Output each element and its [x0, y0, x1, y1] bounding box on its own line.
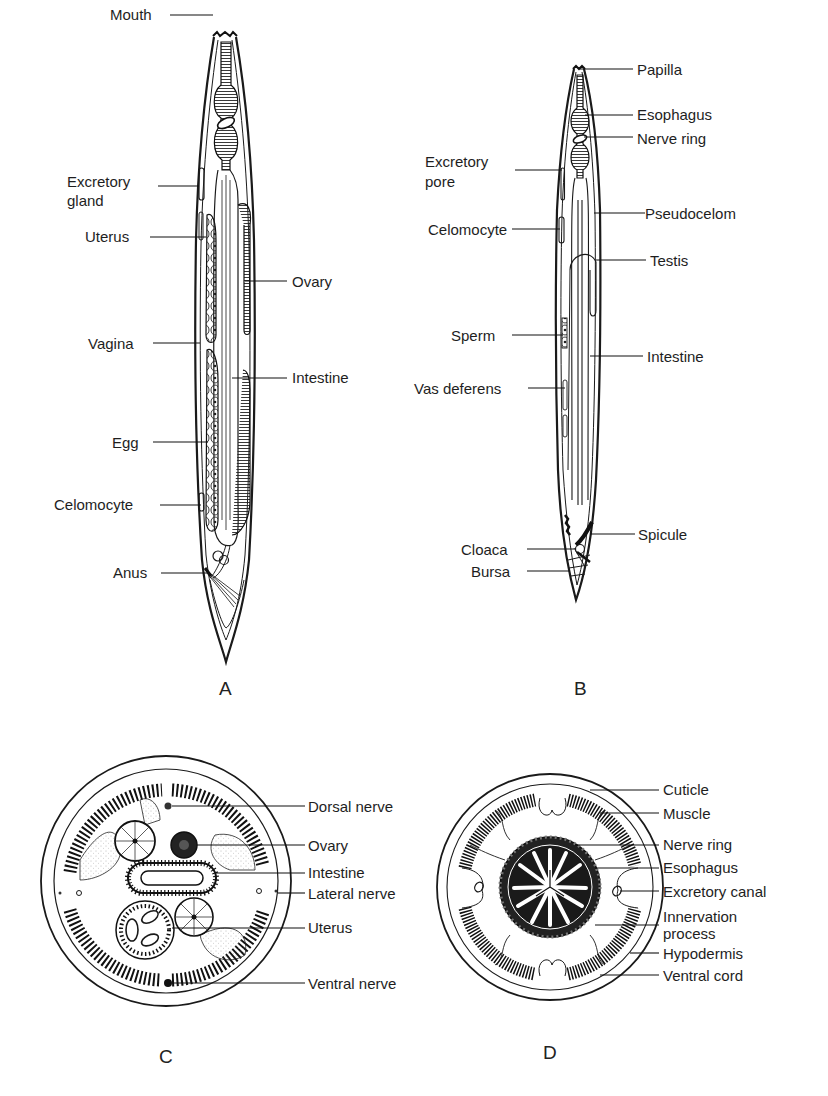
label-a-egg: Egg: [112, 434, 139, 451]
panel-a-drawing: [150, 15, 287, 662]
label-b-spicule: Spicule: [638, 526, 687, 543]
label-b-cloaca: Cloaca: [461, 541, 508, 558]
label-b-excretory-pore-line1: Excretory: [425, 153, 488, 170]
label-b-bursa: Bursa: [471, 563, 510, 580]
label-d-muscle: Muscle: [663, 805, 711, 822]
label-a-uterus: Uterus: [85, 228, 129, 245]
label-a-excretory-gland-line1: Excretory: [67, 173, 130, 190]
label-c-ovary: Ovary: [308, 837, 348, 854]
panel-a-letter: A: [219, 678, 232, 700]
label-c-ventral-nerve: Ventral nerve: [308, 975, 396, 992]
label-b-pseudocelom: Pseudocelom: [645, 205, 736, 222]
panel-d-letter: D: [543, 1042, 557, 1064]
label-c-intestine: Intestine: [308, 864, 365, 881]
label-b-testis: Testis: [650, 252, 688, 269]
panel-b-drawing: [512, 66, 646, 600]
label-a-anus: Anus: [113, 564, 147, 581]
label-d-excretory-canal: Excretory canal: [663, 883, 766, 900]
label-d-innervation-process-line1: Innervation: [663, 908, 737, 925]
label-a-mouth: Mouth: [110, 6, 152, 23]
label-b-sperm: Sperm: [451, 327, 495, 344]
label-a-excretory-gland-line2: gland: [67, 192, 104, 209]
label-d-ventral-cord: Ventral cord: [663, 967, 743, 984]
panel-d-drawing: [437, 774, 663, 1000]
label-b-esophagus: Esophagus: [637, 106, 712, 123]
label-b-papilla: Papilla: [637, 61, 682, 78]
label-b-excretory-pore-line2: pore: [425, 173, 455, 190]
label-d-cuticle: Cuticle: [663, 781, 709, 798]
label-b-nerve-ring: Nerve ring: [637, 130, 706, 147]
label-d-innervation-process-line2: process: [663, 925, 716, 942]
label-c-lateral-nerve: Lateral nerve: [308, 885, 396, 902]
label-a-celomocyte: Celomocyte: [54, 496, 133, 513]
label-b-vas-deferens: Vas deferens: [414, 380, 501, 397]
label-d-hypodermis: Hypodermis: [663, 945, 743, 962]
label-a-intestine: Intestine: [292, 369, 349, 386]
panel-b-letter: B: [574, 678, 587, 700]
label-b-celomocyte: Celomocyte: [428, 221, 507, 238]
label-c-dorsal-nerve: Dorsal nerve: [308, 798, 393, 815]
panel-c-letter: C: [159, 1046, 173, 1068]
label-d-esophagus: Esophagus: [663, 859, 738, 876]
panel-c-drawing: [41, 756, 305, 1006]
label-a-vagina: Vagina: [88, 335, 134, 352]
label-b-intestine: Intestine: [647, 348, 704, 365]
label-d-nerve-ring: Nerve ring: [663, 836, 732, 853]
label-c-uterus: Uterus: [308, 919, 352, 936]
label-a-ovary: Ovary: [292, 273, 332, 290]
